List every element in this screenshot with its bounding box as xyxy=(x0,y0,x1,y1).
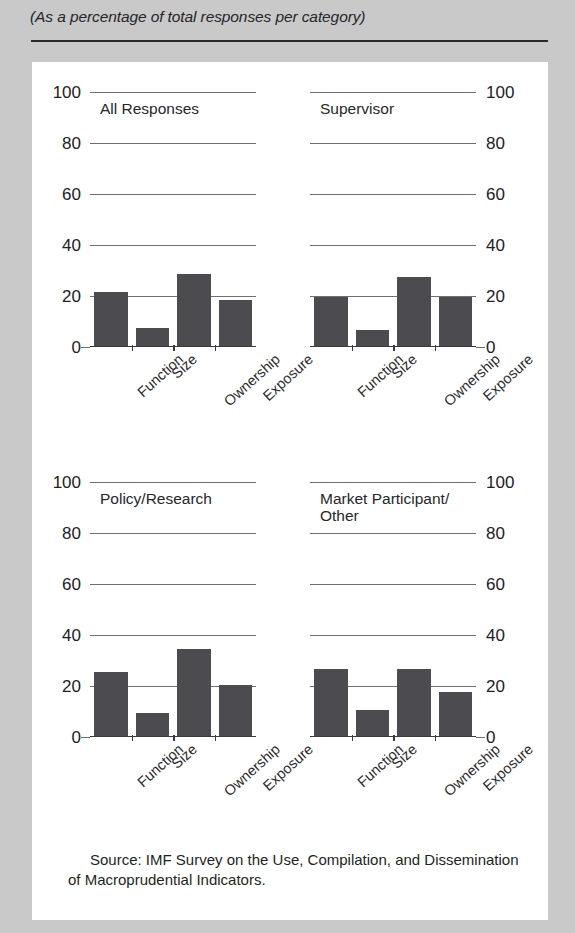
ytick-dash-0 xyxy=(476,347,485,348)
plot-area: 100806040200SupervisorFunctionSizeOwners… xyxy=(310,92,476,347)
y-axis-label-0: 0 xyxy=(72,339,81,356)
bar-slot xyxy=(132,92,174,346)
plot-area: 100806040200Market Participant/ OtherFun… xyxy=(310,482,476,737)
charts-grid: 100806040200All ResponsesFunctionSizeOwn… xyxy=(32,84,548,844)
source-note: Source: IMF Survey on the Use, Compilati… xyxy=(68,850,528,891)
bar-size xyxy=(356,710,390,736)
bars-layer xyxy=(310,482,476,736)
bar-slot xyxy=(352,482,394,736)
y-axis-label-20: 20 xyxy=(62,288,81,305)
x-axis-labels: FunctionSizeOwnershipExposure xyxy=(310,347,476,417)
y-axis-label-60: 60 xyxy=(62,186,81,203)
bar-slot xyxy=(90,92,132,346)
bar-size xyxy=(136,713,170,736)
bars-layer xyxy=(90,92,256,346)
bar-slot xyxy=(132,482,174,736)
plot-area: 100806040200Policy/ResearchFunctionSizeO… xyxy=(90,482,256,737)
bar-slot xyxy=(90,482,132,736)
y-axis-label-40: 40 xyxy=(486,627,505,644)
bar-slot xyxy=(435,92,477,346)
ytick-dash-0 xyxy=(81,347,90,348)
y-axis-label-40: 40 xyxy=(62,237,81,254)
y-axis-label-40: 40 xyxy=(486,237,505,254)
bar-exposure xyxy=(219,300,253,346)
chart-panel-1: 100806040200All ResponsesFunctionSizeOwn… xyxy=(46,84,294,454)
plot-area: 100806040200All ResponsesFunctionSizeOwn… xyxy=(90,92,256,347)
bar-slot xyxy=(352,92,394,346)
bar-exposure xyxy=(439,692,473,735)
bar-ownership xyxy=(397,277,431,346)
chart-panel-4: 100806040200Market Participant/ OtherFun… xyxy=(294,474,542,844)
y-axis-label-0: 0 xyxy=(72,729,81,746)
figure-subtitle: (As a percentage of total responses per … xyxy=(30,8,365,26)
bar-function xyxy=(314,669,348,735)
bar-slot xyxy=(215,92,257,346)
y-axis-label-80: 80 xyxy=(62,135,81,152)
x-axis-labels: FunctionSizeOwnershipExposure xyxy=(90,347,256,417)
bar-slot xyxy=(435,482,477,736)
y-axis-label-80: 80 xyxy=(486,525,505,542)
figure-root: (As a percentage of total responses per … xyxy=(0,0,575,933)
y-axis-label-80: 80 xyxy=(486,135,505,152)
bar-slot xyxy=(393,92,435,346)
y-axis-label-100: 100 xyxy=(486,84,514,101)
bar-ownership xyxy=(177,274,211,345)
bar-ownership xyxy=(397,669,431,735)
bar-slot xyxy=(173,482,215,736)
bars-layer xyxy=(90,482,256,736)
bar-size xyxy=(356,330,390,345)
bar-exposure xyxy=(219,685,253,736)
chart-panel-2: 100806040200SupervisorFunctionSizeOwners… xyxy=(294,84,542,454)
y-axis-label-40: 40 xyxy=(62,627,81,644)
ytick-dash-0 xyxy=(476,737,485,738)
bar-slot xyxy=(393,482,435,736)
bar-function xyxy=(94,672,128,736)
x-axis-labels: FunctionSizeOwnershipExposure xyxy=(90,737,256,807)
y-axis-label-20: 20 xyxy=(486,288,505,305)
y-axis-label-60: 60 xyxy=(486,186,505,203)
y-axis-label-100: 100 xyxy=(53,474,81,491)
chart-panel-3: 100806040200Policy/ResearchFunctionSizeO… xyxy=(46,474,294,844)
y-axis-label-80: 80 xyxy=(62,525,81,542)
bar-function xyxy=(94,292,128,346)
header-divider xyxy=(31,40,548,42)
bars-layer xyxy=(310,92,476,346)
bar-ownership xyxy=(177,649,211,736)
bar-exposure xyxy=(439,297,473,345)
y-axis-label-60: 60 xyxy=(62,576,81,593)
chart-card: 100806040200All ResponsesFunctionSizeOwn… xyxy=(32,62,548,920)
x-axis-labels: FunctionSizeOwnershipExposure xyxy=(310,737,476,807)
bar-slot xyxy=(310,482,352,736)
bar-slot xyxy=(173,92,215,346)
bar-size xyxy=(136,328,170,346)
bar-slot xyxy=(215,482,257,736)
y-axis-label-20: 20 xyxy=(62,678,81,695)
bar-slot xyxy=(310,92,352,346)
y-axis-label-60: 60 xyxy=(486,576,505,593)
y-axis-label-20: 20 xyxy=(486,678,505,695)
ytick-dash-0 xyxy=(81,737,90,738)
bar-function xyxy=(314,297,348,345)
y-axis-label-100: 100 xyxy=(53,84,81,101)
y-axis-label-100: 100 xyxy=(486,474,514,491)
